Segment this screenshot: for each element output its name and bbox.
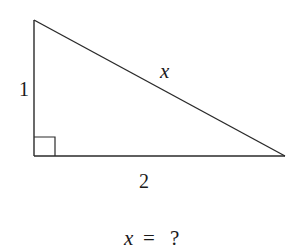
horizontal-leg-label: 2 [139,170,149,192]
triangle-diagram: 1 x 2 x = ? [0,0,303,251]
question-variable: x [123,226,134,250]
hypotenuse-label: x [159,59,170,83]
question-equals: = [143,226,155,250]
question-unknown: ? [170,226,179,250]
hypotenuse [34,20,285,156]
vertical-leg-label: 1 [19,78,29,100]
right-angle-marker [34,137,55,156]
